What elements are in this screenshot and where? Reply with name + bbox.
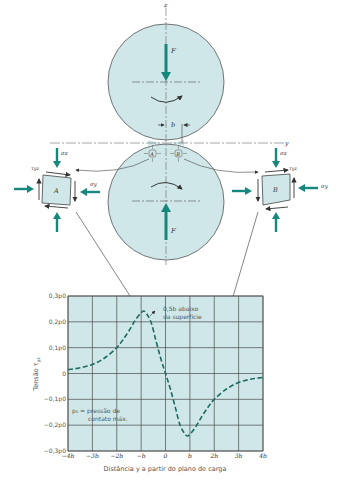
annotation-depth-line1: 0,5b abaixo bbox=[163, 305, 198, 312]
y-tick-label: −0,1p0 bbox=[44, 395, 66, 403]
stress-chart: 0,3p00,2p00,1p00−0,1p0−0,2p0−0,3p0 −4b−3… bbox=[44, 292, 267, 459]
chart-y-axis-label: Tensão τyz bbox=[32, 357, 41, 392]
annotation-p0-line1: p₀ = pressão de bbox=[72, 407, 120, 415]
element-a-label: A bbox=[53, 187, 59, 195]
contact-width-label: b bbox=[171, 121, 175, 129]
y-tick-label: −0,2p0 bbox=[44, 421, 66, 429]
point-a-label: A bbox=[149, 151, 154, 157]
x-tick-label: −3b bbox=[86, 452, 99, 459]
element-b-sigma-z: σz bbox=[280, 150, 287, 156]
x-tick-label: −2b bbox=[110, 452, 123, 459]
y-tick-label: 0,3p0 bbox=[49, 292, 66, 300]
x-tick-label: b bbox=[188, 452, 192, 459]
element-a-tau: τyz bbox=[31, 165, 40, 172]
x-tick-label: 2b bbox=[209, 452, 218, 459]
element-a-sigma-z: σz bbox=[61, 150, 68, 156]
x-tick-label: 3b bbox=[235, 452, 243, 459]
x-tick-label: 0 bbox=[164, 452, 168, 459]
element-b-tau: τyz bbox=[289, 165, 298, 172]
chart-y-ticks: 0,3p00,2p00,1p00−0,1p0−0,2p0−0,3p0 bbox=[44, 292, 66, 455]
element-a-sigma-y: σy bbox=[90, 181, 98, 188]
chart-x-ticks: −4b−3b−2b−b0b2b3b4b bbox=[62, 452, 267, 459]
x-tick-label: −b bbox=[137, 452, 146, 459]
y-tick-label: 0 bbox=[62, 370, 66, 377]
z-axis-label: z bbox=[163, 1, 168, 8]
contact-stress-figure: z y F F b A B bbox=[0, 0, 342, 486]
y-tick-label: 0,1p0 bbox=[49, 344, 66, 352]
point-b-label: B bbox=[175, 151, 180, 157]
x-tick-label: 4b bbox=[258, 452, 267, 459]
chart-x-axis-label: Distância y a partir do plano de carga bbox=[104, 465, 227, 473]
x-tick-label: −4b bbox=[62, 452, 75, 459]
y-tick-label: 0,2p0 bbox=[49, 318, 66, 326]
annotation-p0-line2: contato máx. bbox=[88, 415, 128, 422]
annotation-depth-line2: da superfície bbox=[163, 313, 202, 321]
element-b-sigma-y: σy bbox=[321, 183, 329, 190]
y-axis-label: y bbox=[284, 139, 289, 147]
element-b-label: B bbox=[272, 186, 278, 194]
